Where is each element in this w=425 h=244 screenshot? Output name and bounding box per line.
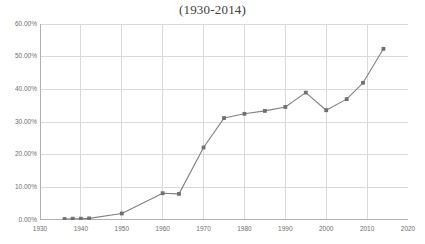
x-tick-label: 2010 [349,226,385,233]
y-tick-label: 50.00% [1,53,37,60]
plot-area [40,24,408,220]
y-tick-label: 20.00% [1,151,37,158]
x-tick-label: 1930 [22,226,58,233]
series-line-path [65,49,384,219]
y-tick-label: 10.00% [1,184,37,191]
x-tick-label: 1990 [267,226,303,233]
x-tick-label: 1940 [63,226,99,233]
chart-plot-svg [40,24,408,220]
series-data-markers [63,47,386,220]
chart-container: (1930-2014) 60.00%50.00%40.00%30.00%20.0… [0,0,425,244]
y-tick-label: 30.00% [1,119,37,126]
x-tick-label: 1970 [186,226,222,233]
y-tick-label: 0.00% [1,217,37,224]
horizontal-gridlines [40,24,408,187]
chart-title: (1930-2014) [0,2,425,18]
x-tick-label: 1960 [145,226,181,233]
x-tick-label: 1980 [226,226,262,233]
x-tick-label: 2020 [390,226,425,233]
y-tick-label: 40.00% [1,86,37,93]
x-axis-labels: 1930194019501960197019801990200020102020 [0,226,425,242]
y-tick-label: 60.00% [1,21,37,28]
x-tick-label: 2000 [308,226,344,233]
x-tick-label: 1950 [104,226,140,233]
y-axis-labels: 60.00%50.00%40.00%30.00%20.00%10.00%0.00… [0,0,37,244]
